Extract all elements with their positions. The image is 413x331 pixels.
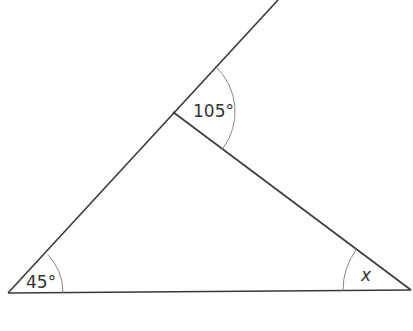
triangle-diagram: 45° 105° x bbox=[0, 0, 413, 331]
base-line bbox=[8, 290, 411, 293]
left-side-extended-line bbox=[8, 0, 278, 293]
right-side-line bbox=[173, 112, 411, 290]
angle-label-45: 45° bbox=[26, 272, 56, 292]
angle-arc-x bbox=[343, 249, 357, 290]
angle-label-105: 105° bbox=[193, 101, 234, 121]
angle-label-x: x bbox=[360, 265, 372, 285]
